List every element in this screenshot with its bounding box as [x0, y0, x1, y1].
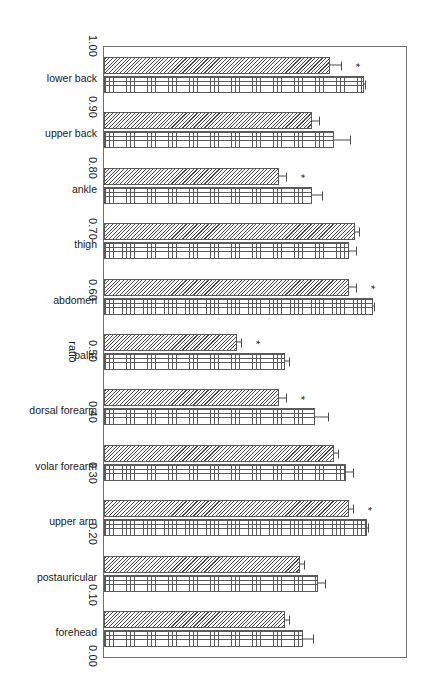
bar-old[interactable]: * [104, 168, 406, 185]
bar-old[interactable] [104, 611, 406, 628]
bar-group: * [104, 491, 406, 546]
error-bar [363, 84, 366, 85]
bar-rect [104, 408, 315, 425]
error-bar-cap [359, 228, 360, 237]
error-bar-cap [353, 468, 354, 477]
bar-rect [104, 556, 300, 573]
error-bar-cap [328, 413, 329, 422]
bar-rect [104, 500, 349, 517]
bar-group-inner: * [104, 269, 406, 324]
bar-old[interactable]: * [104, 500, 406, 517]
significance-marker: * [297, 174, 305, 178]
bar-young[interactable] [104, 131, 406, 148]
bar-group [104, 546, 406, 601]
bar-group [104, 213, 406, 268]
bar-rect [104, 334, 237, 351]
bar-young[interactable] [104, 519, 406, 536]
bar-group-inner [104, 213, 406, 268]
bar-group-inner: * [104, 380, 406, 435]
bar-young[interactable] [104, 76, 406, 93]
error-bar-cap [289, 616, 290, 625]
figure-canvas: Old Young ****** ratio 0.000.100.200.300… [19, 10, 419, 672]
error-bar [311, 120, 320, 121]
bar-group [104, 435, 406, 490]
category-label: abdomen [53, 294, 97, 306]
bar-rect [104, 57, 331, 74]
error-bar-cap [322, 191, 323, 200]
error-bar [354, 231, 360, 232]
error-bar [330, 65, 342, 66]
bar-group: * [104, 158, 406, 213]
error-bar [299, 564, 305, 565]
error-bar-cap [356, 247, 357, 256]
bar-young[interactable] [104, 187, 406, 204]
error-bar [314, 416, 329, 417]
error-bar-cap [350, 136, 351, 145]
category-label: ankle [72, 183, 97, 195]
bar-group-inner [104, 546, 406, 601]
bar-rect [104, 298, 373, 315]
bar-group-inner: * [104, 158, 406, 213]
error-bar [372, 306, 375, 307]
error-bar-cap [313, 635, 314, 644]
error-bar [278, 176, 287, 177]
error-bar-cap [286, 394, 287, 403]
bar-old[interactable]: * [104, 279, 406, 296]
bar-rect [104, 389, 279, 406]
category-label: thigh [74, 238, 97, 250]
bar-old[interactable]: * [104, 57, 406, 74]
bar-young[interactable] [104, 353, 406, 370]
error-bar [348, 287, 357, 288]
category-label: dorsal forearm [29, 404, 97, 416]
category-label: volar forearm [35, 460, 97, 472]
error-bar [284, 619, 290, 620]
bar-group-inner [104, 435, 406, 490]
bar-old[interactable]: * [104, 389, 406, 406]
bar-group [104, 602, 406, 657]
error-bar-cap [241, 338, 242, 347]
bar-old[interactable]: * [104, 334, 406, 351]
error-bar-cap [356, 283, 357, 292]
bar-young[interactable] [104, 630, 406, 647]
error-bar [284, 361, 290, 362]
significance-marker: * [297, 396, 305, 400]
bar-young[interactable] [104, 575, 406, 592]
bar-rect [104, 223, 355, 240]
bar-young[interactable] [104, 464, 406, 481]
bar-group-inner [104, 602, 406, 657]
bar-old[interactable] [104, 223, 406, 240]
bar-rect [104, 519, 367, 536]
bar-group: * [104, 380, 406, 435]
significance-marker: * [364, 507, 372, 511]
category-label: palm [74, 349, 97, 361]
significance-marker: * [352, 63, 360, 67]
error-bar-cap [341, 61, 342, 70]
error-bar [366, 527, 369, 528]
bar-old[interactable] [104, 112, 406, 129]
bar-old[interactable] [104, 445, 406, 462]
bar-rect [104, 168, 279, 185]
error-bar-cap [325, 579, 326, 588]
bar-group-inner [104, 102, 406, 157]
bar-rect [104, 445, 334, 462]
bar-young[interactable] [104, 242, 406, 259]
significance-marker: * [252, 340, 260, 344]
bar-rect [104, 464, 346, 481]
bar-rect [104, 187, 312, 204]
error-bar-cap [289, 357, 290, 366]
bar-young[interactable] [104, 298, 406, 315]
bar-rect [104, 76, 364, 93]
bar-group: * [104, 47, 406, 102]
bar-young[interactable] [104, 408, 406, 425]
error-bar-cap [368, 524, 369, 533]
error-bar [333, 453, 339, 454]
bar-old[interactable] [104, 556, 406, 573]
bar-group-inner: * [104, 47, 406, 102]
bar-rect [104, 112, 312, 129]
significance-marker: * [367, 285, 375, 289]
error-bar-cap [365, 80, 366, 89]
error-bar-cap [374, 302, 375, 311]
bar-group-inner: * [104, 491, 406, 546]
bar-group [104, 102, 406, 157]
error-bar [302, 638, 314, 639]
